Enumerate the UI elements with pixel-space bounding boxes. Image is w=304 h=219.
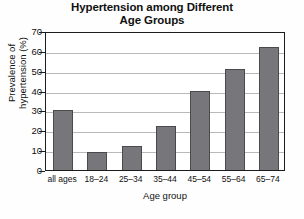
- bar-slot: [80, 33, 114, 170]
- plot-area: [45, 32, 285, 171]
- bar: [87, 152, 107, 170]
- y-tick-label: 30: [2, 107, 42, 117]
- bar: [190, 91, 210, 170]
- y-tick-mark: [39, 92, 45, 93]
- bars-group: [46, 33, 284, 170]
- x-tick-label: 55–64: [222, 174, 246, 184]
- x-tick-label: 35–44: [153, 174, 177, 184]
- bar-slot: [115, 33, 149, 170]
- bar-slot: [252, 33, 286, 170]
- bar-slot: [149, 33, 183, 170]
- x-tick-label: 18–24: [85, 174, 109, 184]
- y-tick-label: 40: [2, 87, 42, 97]
- bar: [156, 126, 176, 170]
- x-tick-label: all ages: [47, 174, 76, 184]
- bar: [225, 69, 245, 170]
- chart-title-line-1: Hypertension among Different: [0, 1, 304, 14]
- x-tick-label: 65–74: [256, 174, 280, 184]
- bar-slot: [46, 33, 80, 170]
- x-tick-label: 45–54: [187, 174, 211, 184]
- y-tick-mark: [39, 111, 45, 112]
- chart-title-line-2: Age Groups: [0, 14, 304, 27]
- y-tick-mark: [39, 32, 45, 33]
- x-tick-label: 25–34: [119, 174, 143, 184]
- y-tick-label: 20: [2, 127, 42, 137]
- bar: [53, 110, 73, 170]
- y-tick-mark: [39, 171, 45, 172]
- y-tick-mark: [39, 151, 45, 152]
- y-tick-label: 60: [2, 47, 42, 57]
- y-tick-label: 10: [2, 146, 42, 156]
- bar-slot: [217, 33, 251, 170]
- y-tick-label: 0: [2, 166, 42, 176]
- y-tick-mark: [39, 72, 45, 73]
- bar: [259, 47, 279, 170]
- y-tick-mark: [39, 52, 45, 53]
- y-tick-mark: [39, 131, 45, 132]
- y-tick-label: 70: [2, 27, 42, 37]
- x-axis-title: Age group: [45, 190, 285, 201]
- y-tick-label: 50: [2, 67, 42, 77]
- bar: [122, 146, 142, 170]
- bar-chart-figure: Hypertension among Different Age Groups …: [0, 0, 304, 219]
- chart-title: Hypertension among Different Age Groups: [0, 1, 304, 27]
- bar-slot: [183, 33, 217, 170]
